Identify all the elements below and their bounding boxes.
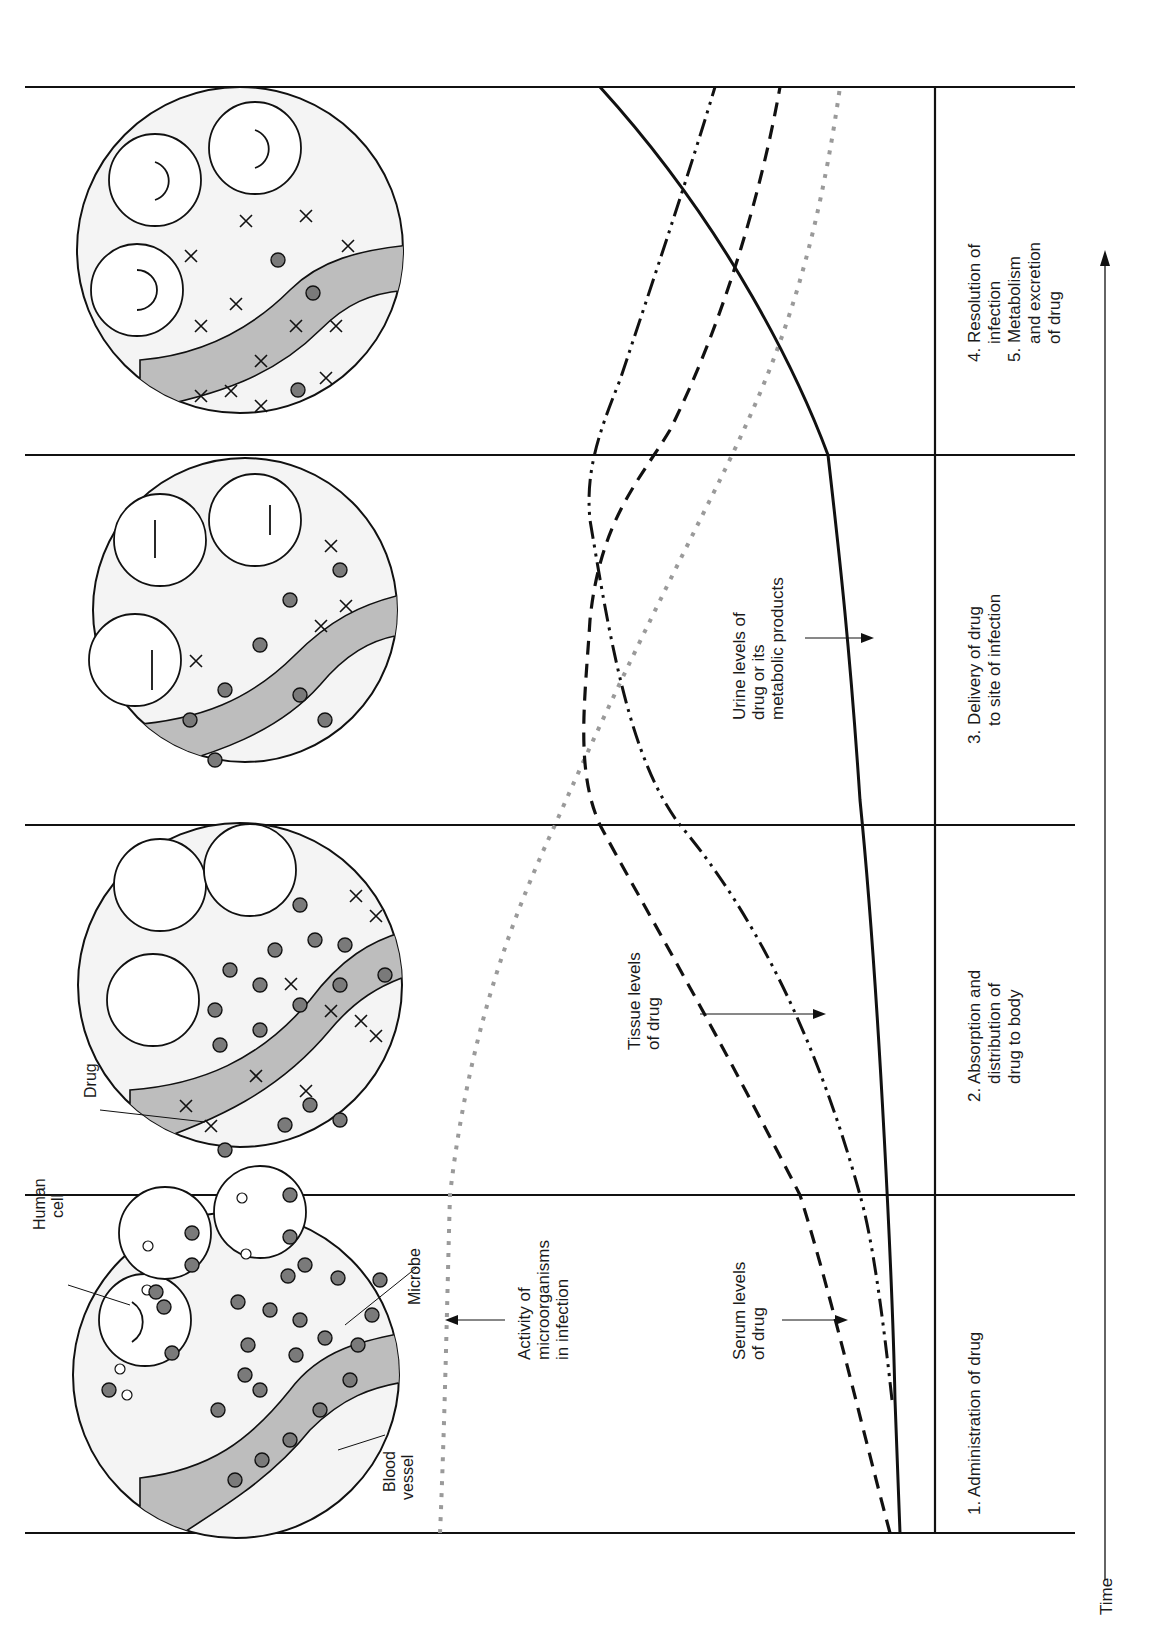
- label-tissue-levels: Tissue levels of drug: [625, 948, 663, 1050]
- label-activity-of-microorganisms: Activity of microorganisms in infection: [515, 1235, 572, 1360]
- stage-2-label: 2. Absorption and distribution of drug t…: [965, 965, 1024, 1102]
- curves: [440, 87, 900, 1533]
- time-arrow-icon: [1100, 250, 1110, 266]
- callout-human-cell: Human cell: [31, 1174, 66, 1230]
- panel-3-delivery: [89, 458, 400, 775]
- curve-tissue-levels: [589, 87, 892, 1400]
- panel-2-absorption: Drug: [78, 823, 410, 1157]
- arrow-icon: [861, 633, 874, 643]
- time-axis: Time: [1097, 250, 1116, 1615]
- callout-drug: Drug: [82, 1063, 99, 1098]
- panel-1-infection: Human cell Microbe Blood vessel: [31, 1166, 423, 1560]
- callout-blood-vessel: Blood vessel: [381, 1447, 416, 1500]
- time-axis-label: Time: [1097, 1578, 1116, 1615]
- curve-activity-of-microorganisms: [440, 87, 840, 1533]
- label-urine-levels: Urine levels of drug or its metabolic pr…: [730, 577, 787, 720]
- curve-labels: Activity of microorganisms in infection …: [445, 577, 874, 1360]
- arrow-icon: [835, 1315, 848, 1325]
- label-serum-levels: Serum levels of drug: [730, 1257, 768, 1360]
- stage-1-label: 1. Administration of drug: [965, 1332, 984, 1515]
- arrow-icon: [813, 1009, 826, 1019]
- panel-4-resolution: [77, 87, 410, 413]
- drug-action-diagram: 1. Administration of drug 2. Absorption …: [0, 0, 1151, 1639]
- callout-microbe: Microbe: [406, 1248, 423, 1305]
- stage-labels: 1. Administration of drug 2. Absorption …: [965, 237, 1064, 1515]
- stage-3-label: 3. Delivery of drug to site of infection: [965, 594, 1004, 744]
- stage-4-5-label: 4. Resolution of infection 5. Metabolism…: [965, 237, 1064, 362]
